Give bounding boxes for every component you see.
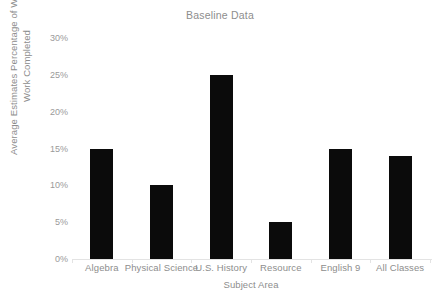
x-axis-line [72,259,432,260]
x-category-label: Algebra [85,262,118,273]
y-tick-label: 25% [8,70,68,80]
y-tick-label: 5% [8,217,68,227]
y-tick-label: 20% [8,107,68,117]
x-axis-title: Subject Area [72,279,430,290]
x-category-label: All Classes [376,262,424,273]
x-category-label: Resource [260,262,301,273]
x-category-label: English 9 [321,262,361,273]
x-category-label: U.S. History [195,262,247,273]
y-tick-label: 15% [8,144,68,154]
bar [150,185,173,259]
x-axis-category-labels: AlgebraPhysical ScienceU.S. HistoryResou… [72,262,430,278]
bar [329,149,352,260]
bar [210,75,233,259]
y-tick-label: 0% [8,254,68,264]
bar [389,156,412,259]
y-tick-label: 30% [8,33,68,43]
bar-chart: Baseline Data Average Estimates Percenta… [0,0,440,302]
y-tick-label: 10% [8,180,68,190]
x-tick-mark [430,259,431,263]
y-axis-tick-labels: 0%5%10%15%20%25%30% [0,0,68,302]
bars-container [72,38,430,259]
bar [269,222,292,259]
x-category-label: Physical Science [125,262,198,273]
bar [90,149,113,260]
